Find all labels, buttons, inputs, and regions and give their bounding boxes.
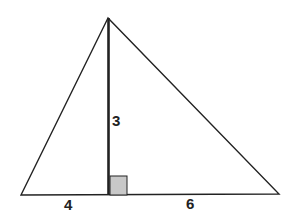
altitude-label: 3 (112, 112, 120, 129)
left-segment-label: 4 (64, 196, 73, 213)
triangle (21, 18, 279, 195)
triangle-diagram: 3 4 6 (0, 0, 293, 219)
right-angle-marker (110, 176, 127, 195)
right-segment-label: 6 (186, 195, 194, 212)
